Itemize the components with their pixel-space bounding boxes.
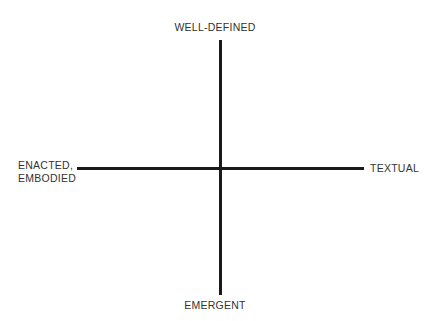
axis-label-enacted-line: ENACTED, [18, 159, 73, 171]
axis-label-emergent: EMERGENT [0, 299, 433, 312]
axis-label-textual: TEXTUAL [370, 162, 419, 175]
axis-label-enacted-embodied: ENACTED, EMBODIED [18, 159, 76, 185]
axis-label-embodied-line: EMBODIED [18, 172, 76, 185]
axis-label-well-defined: WELL-DEFINED [0, 21, 433, 34]
horizontal-axis-line [77, 167, 364, 170]
quadrant-diagram-canvas: WELL-DEFINED EMERGENT ENACTED, EMBODIED … [0, 0, 433, 321]
